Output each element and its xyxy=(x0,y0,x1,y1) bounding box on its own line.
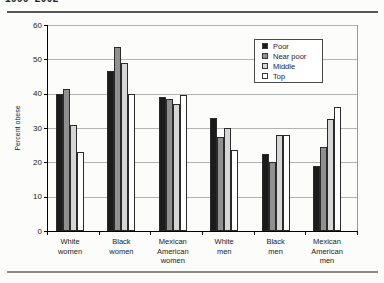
x-tick-mark xyxy=(150,232,151,235)
legend-label: Poor xyxy=(273,42,289,51)
legend-item: Middle xyxy=(262,63,322,70)
y-axis-line xyxy=(47,25,48,231)
legend-label: Near poor xyxy=(273,52,306,61)
bar-near-poor xyxy=(63,89,70,231)
legend-swatch-icon xyxy=(262,43,268,49)
x-tick-mark xyxy=(305,232,306,235)
gridline xyxy=(47,162,357,163)
y-tick-label: 30 xyxy=(12,124,42,133)
y-tick-label: 0 xyxy=(12,227,42,236)
x-tick-mark xyxy=(202,232,203,235)
x-category-label: Mexican American men xyxy=(297,237,357,266)
bar-near-poor xyxy=(114,47,121,231)
bar-middle xyxy=(276,135,283,231)
bar-poor xyxy=(56,94,63,231)
bar-near-poor xyxy=(320,147,327,231)
x-tick-mark xyxy=(254,232,255,235)
y-tick-label: 40 xyxy=(12,89,42,98)
gridline xyxy=(47,197,357,198)
gridline xyxy=(47,25,357,26)
bar-middle xyxy=(70,125,77,231)
legend-item: Near poor xyxy=(262,53,322,60)
bar-top xyxy=(128,94,135,231)
bar-near-poor xyxy=(217,137,224,231)
y-tick-label: 50 xyxy=(12,55,42,64)
bar-top xyxy=(77,152,84,231)
bar-poor xyxy=(107,71,114,231)
x-tick-mark xyxy=(357,232,358,235)
legend-swatch-icon xyxy=(262,53,268,59)
y-tick-label: 60 xyxy=(12,21,42,30)
x-tick-mark xyxy=(47,232,48,235)
bottom-divider xyxy=(7,271,378,273)
bar-middle xyxy=(327,119,334,231)
legend-label: Top xyxy=(273,72,285,81)
bar-middle xyxy=(224,128,231,231)
gridline xyxy=(47,128,357,129)
legend-swatch-icon xyxy=(262,73,268,79)
x-axis-line xyxy=(47,231,358,232)
bar-poor xyxy=(313,166,320,231)
y-tick-label: 10 xyxy=(12,192,42,201)
x-tick-mark xyxy=(99,232,100,235)
bar-poor xyxy=(210,118,217,231)
y-tick-label: 20 xyxy=(12,158,42,167)
gridline xyxy=(47,94,357,95)
figure-page: 1999–2002 Percent obese 0102030405060Whi… xyxy=(0,0,384,283)
obesity-bar-chart: Percent obese 0102030405060White womenBl… xyxy=(0,0,384,283)
plot-right-border xyxy=(357,25,358,231)
bar-middle xyxy=(121,63,128,231)
bar-top xyxy=(334,107,341,231)
bar-top xyxy=(180,95,187,231)
legend: PoorNear poorMiddleTop xyxy=(254,39,323,83)
legend-item: Poor xyxy=(262,43,322,50)
bar-near-poor xyxy=(166,99,173,231)
bar-poor xyxy=(262,154,269,231)
bar-middle xyxy=(173,104,180,231)
bar-top xyxy=(231,150,238,231)
legend-item: Top xyxy=(262,73,322,80)
legend-swatch-icon xyxy=(262,63,268,69)
legend-label: Middle xyxy=(273,62,295,71)
bar-near-poor xyxy=(269,162,276,231)
bar-poor xyxy=(159,97,166,231)
bar-top xyxy=(283,135,290,231)
